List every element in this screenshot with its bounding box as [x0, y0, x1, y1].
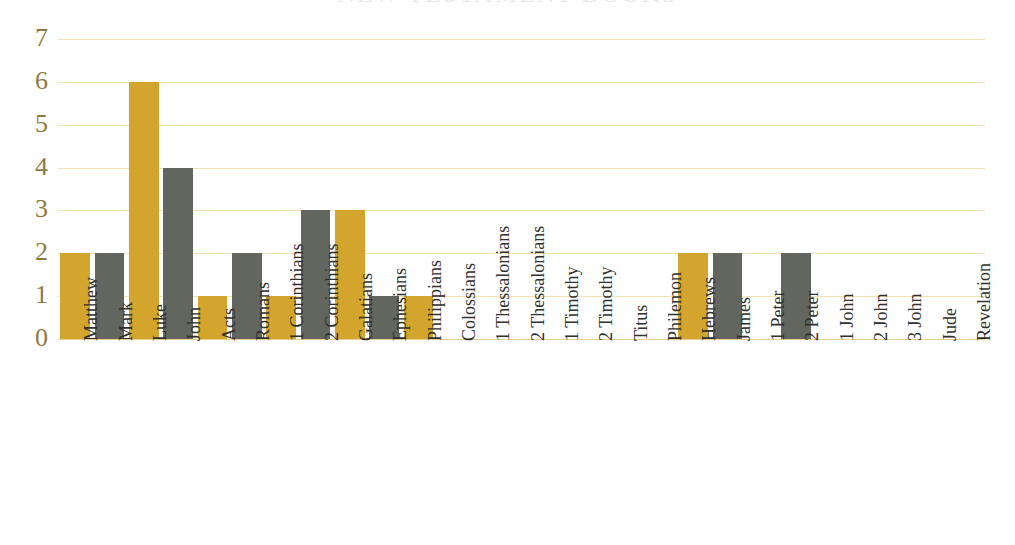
x-axis-tick-label: Titus [632, 305, 650, 341]
x-axis-tick-label: 1 Timothy [563, 266, 581, 341]
x-axis-tick: John [185, 341, 219, 359]
bar-chart: NEW TESTAMENT BOOKS 76543210 MatthewMark… [0, 0, 1015, 545]
x-axis-tick-label: Mark [117, 302, 135, 341]
x-axis-tick-label: Acts [220, 308, 238, 341]
x-axis-tick-label: Jude [941, 308, 959, 341]
chart-title: NEW TESTAMENT BOOKS [0, 0, 1015, 8]
x-axis-tick-label: Hebrews [700, 277, 718, 341]
x-axis-tick-label: 2 Corinthians [323, 244, 341, 342]
y-axis-tick-label: 4 [8, 154, 48, 180]
y-axis-tick-label: 3 [8, 196, 48, 222]
x-axis: MatthewMarkLukeJohnActsRomans1 Corinthia… [58, 341, 985, 541]
y-axis-tick-label: 0 [8, 325, 48, 351]
x-axis-tick: Revelation [975, 341, 1015, 359]
y-axis-tick-label: 1 [8, 282, 48, 308]
x-axis-tick-label: 2 Thessalonians [529, 226, 547, 341]
x-axis-tick-label: 2 John [872, 293, 890, 341]
x-axis-tick: Mark [117, 341, 156, 359]
x-axis-tick-label: 3 John [906, 293, 924, 341]
x-axis-tick: Acts [220, 341, 253, 359]
x-axis-tick-label: Ephesians [391, 268, 409, 341]
x-axis-tick-label: 1 Thessalonians [494, 226, 512, 341]
x-axis-tick-label: 1 Peter [769, 291, 787, 341]
x-axis-tick-label: Philemon [666, 272, 684, 341]
x-axis-tick: Titus [632, 341, 668, 359]
x-axis-tick: Luke [151, 341, 188, 359]
x-axis-tick-label: Revelation [975, 263, 993, 341]
x-axis-tick-label: 2 Peter [803, 291, 821, 341]
x-axis-tick-label: Philippians [426, 260, 444, 341]
x-axis-tick-label: Romans [254, 282, 272, 341]
y-axis-tick-label: 7 [8, 25, 48, 51]
bar [129, 82, 159, 339]
x-axis-tick-label: 1 John [838, 293, 856, 341]
y-axis-tick-label: 2 [8, 239, 48, 265]
x-axis-tick-label: 2 Timothy [597, 266, 615, 341]
x-axis-tick-label: 1 Corinthians [288, 244, 306, 342]
x-axis-tick-label: James [735, 297, 753, 341]
x-axis-tick-label: Matthew [82, 277, 100, 341]
x-axis-tick-label: Luke [151, 304, 169, 341]
x-axis-tick-label: John [185, 307, 203, 341]
x-axis-tick-label: Colossians [460, 263, 478, 341]
y-axis-tick-label: 6 [8, 68, 48, 94]
x-axis-tick: Jude [941, 341, 974, 359]
y-axis: 76543210 [0, 39, 48, 339]
y-axis-tick-label: 5 [8, 111, 48, 137]
x-axis-tick-label: Galatians [357, 273, 375, 341]
